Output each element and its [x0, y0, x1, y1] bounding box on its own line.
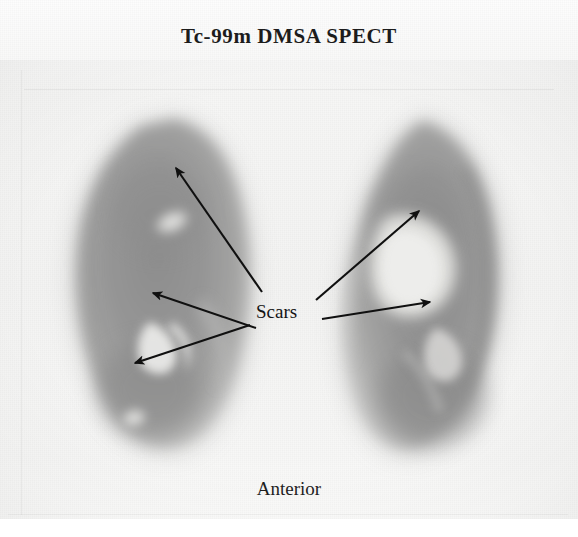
- spect-image: [0, 60, 578, 519]
- scars-annotation-label: Scars: [256, 301, 297, 323]
- spect-scan-page: Tc-99m DMSA SPECT Scars Anterior: [0, 0, 578, 537]
- study-title: Tc-99m DMSA SPECT: [0, 24, 578, 49]
- orientation-label: Anterior: [0, 478, 578, 500]
- left-kidney-organ: [70, 116, 254, 454]
- right-kidney-organ: [340, 116, 505, 456]
